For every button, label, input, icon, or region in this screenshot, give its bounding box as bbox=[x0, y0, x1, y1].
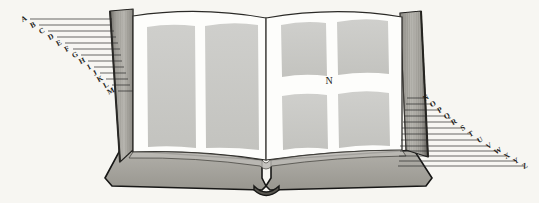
book-diagram-figure: ABCDEFGHIJKLM NOPQRSTUVWXYZ N bbox=[0, 0, 539, 203]
book-illustration: ABCDEFGHIJKLM NOPQRSTUVWXYZ N bbox=[0, 0, 539, 203]
center-label-n: N bbox=[325, 75, 332, 86]
left-page-column-2 bbox=[205, 23, 259, 150]
right-page-block-top-left bbox=[281, 22, 327, 77]
right-page-block-bottom-right bbox=[338, 91, 390, 148]
right-page-block-bottom-left bbox=[282, 94, 328, 150]
right-page-block-top-right bbox=[337, 19, 389, 75]
left-page-column-1 bbox=[147, 25, 196, 148]
